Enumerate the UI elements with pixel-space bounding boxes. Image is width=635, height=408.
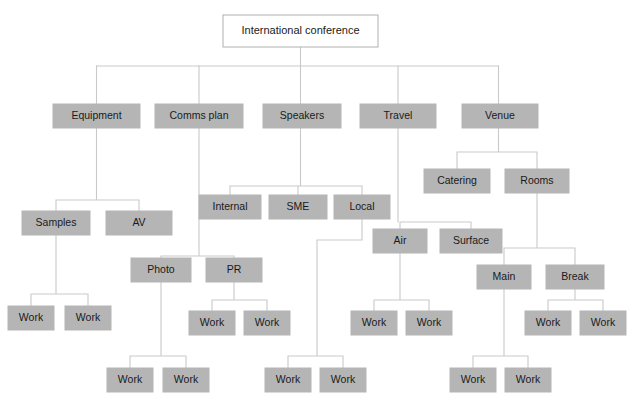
connector-line (457, 128, 537, 169)
wbs-node-w12[interactable]: Work (320, 368, 366, 392)
connector-line (374, 253, 429, 311)
node-label: Work (174, 373, 199, 385)
connector-line (230, 128, 362, 195)
node-label: Work (19, 311, 44, 323)
connector-line (504, 193, 575, 265)
connector-line (161, 128, 234, 258)
node-label: Main (493, 270, 516, 282)
node-label: Samples (36, 216, 77, 228)
wbs-node-comms[interactable]: Comms plan (155, 104, 243, 128)
wbs-node-w8[interactable]: Work (580, 311, 626, 335)
node-label: Venue (485, 109, 515, 121)
wbs-node-w1[interactable]: Work (8, 306, 54, 330)
node-label: Work (200, 316, 225, 328)
node-label: Work (461, 373, 486, 385)
wbs-node-w5[interactable]: Work (351, 311, 397, 335)
wbs-node-w14[interactable]: Work (505, 368, 551, 392)
node-label: International conference (241, 24, 359, 36)
node-label: Work (255, 316, 280, 328)
node-label: Work (276, 373, 301, 385)
node-label: AV (132, 216, 145, 228)
connector-line (31, 235, 88, 306)
wbs-node-rooms[interactable]: Rooms (505, 169, 569, 193)
connector-line (548, 289, 603, 311)
wbs-node-w13[interactable]: Work (450, 368, 496, 392)
wbs-node-internal[interactable]: Internal (199, 195, 261, 219)
node-label: Work (516, 373, 541, 385)
wbs-node-w11[interactable]: Work (265, 368, 311, 392)
node-label: Local (349, 200, 374, 212)
wbs-node-main[interactable]: Main (477, 265, 531, 289)
node-label: Rooms (520, 174, 553, 186)
wbs-node-root[interactable]: International conference (223, 15, 378, 47)
node-label: Travel (384, 109, 413, 121)
wbs-node-local[interactable]: Local (334, 195, 390, 219)
wbs-node-w4[interactable]: Work (244, 311, 290, 335)
wbs-node-w3[interactable]: Work (189, 311, 235, 335)
wbs-node-air[interactable]: Air (373, 229, 427, 253)
node-label: Work (591, 316, 616, 328)
connector-line (130, 282, 186, 368)
node-label: SME (287, 200, 310, 212)
wbs-node-break[interactable]: Break (546, 265, 604, 289)
connector-line (473, 289, 528, 368)
node-label: Work (76, 311, 101, 323)
node-label: Break (561, 270, 589, 282)
wbs-node-w2[interactable]: Work (65, 306, 111, 330)
connector-line (212, 282, 267, 311)
node-label: Surface (453, 234, 489, 246)
node-label: Photo (147, 263, 175, 275)
wbs-node-av[interactable]: AV (106, 211, 172, 235)
node-label: Work (536, 316, 561, 328)
connector-line (56, 128, 139, 211)
node-label: Work (118, 373, 143, 385)
wbs-node-w6[interactable]: Work (406, 311, 452, 335)
node-label: Internal (212, 200, 247, 212)
wbs-node-equipment[interactable]: Equipment (53, 104, 140, 128)
wbs-node-w7[interactable]: Work (525, 311, 571, 335)
node-label: Catering (437, 174, 477, 186)
node-label: Work (331, 373, 356, 385)
node-label: Speakers (280, 109, 324, 121)
node-label: Comms plan (170, 109, 229, 121)
wbs-node-w9[interactable]: Work (107, 368, 153, 392)
wbs-node-pr[interactable]: PR (206, 258, 262, 282)
wbs-node-venue[interactable]: Venue (462, 104, 538, 128)
wbs-node-travel[interactable]: Travel (360, 104, 436, 128)
node-label: Work (417, 316, 442, 328)
wbs-node-catering[interactable]: Catering (424, 169, 490, 193)
node-label: PR (227, 263, 242, 275)
wbs-node-surface[interactable]: Surface (440, 229, 502, 253)
wbs-node-photo[interactable]: Photo (131, 258, 191, 282)
node-label: Work (362, 316, 387, 328)
wbs-diagram: International conferenceEquipmentComms p… (0, 0, 635, 408)
node-label: Equipment (71, 109, 121, 121)
connector-line (288, 219, 362, 368)
wbs-node-sme[interactable]: SME (269, 195, 327, 219)
node-label: Air (394, 234, 407, 246)
wbs-node-speakers[interactable]: Speakers (263, 104, 341, 128)
wbs-node-w10[interactable]: Work (163, 368, 209, 392)
wbs-node-samples[interactable]: Samples (22, 211, 90, 235)
